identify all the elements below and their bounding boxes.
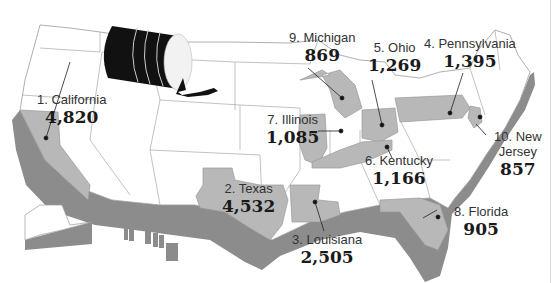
label-texas: 2. Texas 4,532 bbox=[222, 182, 275, 215]
state-name: 1. California bbox=[37, 93, 106, 106]
state-value: 4,532 bbox=[222, 198, 275, 215]
page-edge-divider bbox=[550, 0, 551, 283]
state-value: 1,395 bbox=[424, 53, 516, 70]
state-value: 1,269 bbox=[368, 57, 421, 74]
state-pennsylvania bbox=[395, 95, 470, 122]
label-california: 1. California 4,820 bbox=[37, 93, 106, 126]
state-name: 8. Florida bbox=[454, 205, 508, 218]
label-michigan: 9. Michigan 869 bbox=[289, 31, 355, 64]
state-value: 857 bbox=[494, 161, 542, 178]
state-name: 10. New bbox=[494, 130, 542, 143]
label-kentucky: 6. Kentucky 1,166 bbox=[365, 154, 433, 187]
state-name: 2. Texas bbox=[222, 182, 275, 195]
label-pennsylvania: 4. Pennsylvania 1,395 bbox=[424, 37, 516, 70]
state-name: 5. Ohio bbox=[368, 41, 421, 54]
state-name: 7. Illinois bbox=[266, 113, 319, 126]
state-value: 2,505 bbox=[292, 249, 362, 266]
state-name: 6. Kentucky bbox=[365, 154, 433, 167]
state-value: 905 bbox=[454, 221, 508, 238]
state-name: 3. Louisiana bbox=[292, 233, 362, 246]
state-value: 4,820 bbox=[37, 109, 106, 126]
state-name: 4. Pennsylvania bbox=[424, 37, 516, 50]
us-map-infographic: 1. California 4,820 2. Texas 4,532 3. Lo… bbox=[0, 0, 553, 283]
label-new-jersey: 10. New Jersey 857 bbox=[494, 130, 542, 178]
state-value: 1,085 bbox=[266, 129, 319, 146]
label-louisiana: 3. Louisiana 2,505 bbox=[292, 233, 362, 266]
state-name: 9. Michigan bbox=[289, 31, 355, 44]
label-florida: 8. Florida 905 bbox=[454, 205, 508, 238]
state-name-line2: Jersey bbox=[494, 145, 542, 158]
state-value: 1,166 bbox=[365, 170, 433, 187]
label-ohio: 5. Ohio 1,269 bbox=[368, 41, 421, 74]
state-value: 869 bbox=[289, 47, 355, 64]
label-illinois: 7. Illinois 1,085 bbox=[266, 113, 319, 146]
